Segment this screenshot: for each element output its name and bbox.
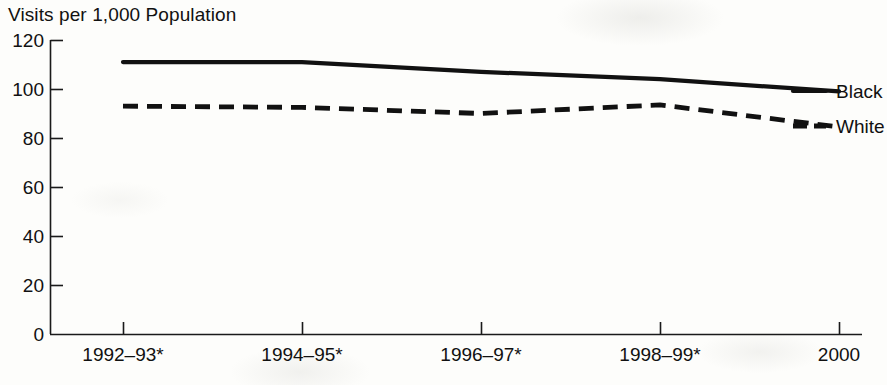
- y-tick-label-20: 20: [0, 276, 44, 295]
- y-tick-label-60: 60: [0, 178, 44, 197]
- y-tick-label-40: 40: [0, 227, 44, 246]
- x-tick-label-1998-99: 1998–99*: [619, 345, 700, 364]
- y-tick-label-0: 0: [0, 325, 44, 344]
- y-tick-label-120: 120: [0, 31, 44, 50]
- legend-label-black: Black: [836, 82, 882, 101]
- series-line-white: [123, 105, 839, 127]
- x-tick-label-1996-97: 1996–97*: [440, 345, 521, 364]
- chart-page: Visits per 1,000 Population: [0, 0, 887, 385]
- y-tick-marks: [51, 41, 64, 286]
- x-tick-label-1994-95: 1994–95*: [261, 345, 342, 364]
- x-tick-label-2000: 2000: [818, 345, 860, 364]
- plot-area: [0, 0, 887, 385]
- legend-label-white: White: [836, 117, 885, 136]
- y-tick-label-80: 80: [0, 129, 44, 148]
- y-tick-label-100: 100: [0, 80, 44, 99]
- x-tick-marks: [124, 322, 840, 335]
- series-line-black: [123, 62, 839, 91]
- x-tick-label-1992-93: 1992–93*: [82, 345, 163, 364]
